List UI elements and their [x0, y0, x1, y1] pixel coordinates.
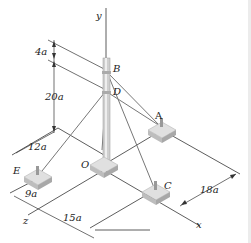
base-E: [24, 166, 52, 190]
dim-label-15a: 15a: [63, 212, 82, 223]
base-A: [148, 118, 176, 143]
label-A: A: [154, 110, 163, 121]
pole: [102, 58, 111, 168]
dim-label-20a: 20a: [44, 91, 64, 102]
dim-label-12a: 12a: [28, 141, 47, 152]
label-x: x: [196, 219, 202, 230]
tower-diagram: y B D A O E C x z 4a 20a 12a 9a 15a 18a: [0, 0, 251, 243]
dim-label-4a: 4a: [34, 46, 47, 57]
label-B: B: [112, 63, 120, 74]
dimension-lines: [14, 40, 236, 238]
label-z: z: [22, 215, 29, 226]
dim-label-9a: 9a: [25, 188, 37, 199]
dim-label-18a: 18a: [200, 184, 219, 195]
label-D: D: [112, 86, 121, 97]
label-C: C: [164, 180, 172, 191]
label-y: y: [95, 10, 102, 21]
dimension-arrowheads: [52, 41, 236, 205]
label-O: O: [81, 159, 89, 170]
base-O: [90, 157, 118, 178]
label-E: E: [12, 165, 21, 176]
